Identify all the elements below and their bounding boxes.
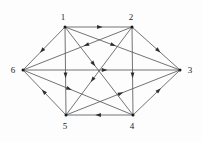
graph-figure: 123456 bbox=[0, 0, 202, 142]
node-label-6: 6 bbox=[11, 65, 16, 75]
node-label-3: 3 bbox=[188, 65, 193, 75]
graph-edge bbox=[23, 27, 65, 70]
node-label-2: 2 bbox=[129, 12, 134, 22]
edges-layer bbox=[23, 27, 180, 115]
graph-node-2 bbox=[131, 26, 134, 29]
graph-node-5 bbox=[65, 114, 68, 117]
edge-arrowhead bbox=[102, 68, 108, 72]
graph-edge bbox=[65, 27, 180, 70]
graph-node-6 bbox=[22, 69, 25, 72]
edge-arrowhead bbox=[84, 42, 90, 46]
graph-edge bbox=[132, 27, 180, 70]
node-label-1: 1 bbox=[61, 12, 66, 22]
node-labels-layer: 123456 bbox=[11, 12, 193, 131]
edge-arrowhead bbox=[110, 42, 116, 46]
graph-edge bbox=[23, 70, 133, 115]
graph-edge bbox=[65, 27, 66, 115]
graph-edge bbox=[133, 70, 180, 115]
edge-arrowhead bbox=[66, 86, 72, 90]
edge-arrowhead bbox=[97, 25, 103, 29]
graph-node-4 bbox=[132, 114, 135, 117]
node-label-4: 4 bbox=[130, 121, 135, 131]
directed-graph-canvas: 123456 bbox=[0, 0, 202, 142]
edge-arrowhead bbox=[131, 73, 135, 79]
graph-edge bbox=[132, 27, 133, 115]
arrowheads-layer bbox=[40, 25, 161, 117]
edge-arrowhead bbox=[64, 73, 68, 79]
graph-node-3 bbox=[179, 69, 182, 72]
edge-arrowhead bbox=[91, 76, 96, 82]
node-label-5: 5 bbox=[63, 121, 68, 131]
graph-node-1 bbox=[64, 26, 67, 29]
edge-arrowhead bbox=[95, 113, 101, 117]
